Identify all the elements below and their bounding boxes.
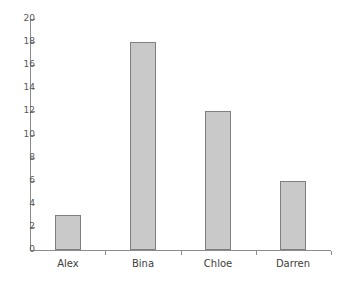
- y-axis-tick: 2: [0, 222, 35, 231]
- y-axis-tick: 8: [0, 153, 35, 162]
- y-axis-tick-label: 14: [13, 83, 35, 92]
- y-axis-tick: 16: [0, 60, 35, 69]
- y-axis-tick-label: 2: [13, 222, 35, 231]
- x-axis-category-label: Bina: [103, 258, 183, 270]
- y-axis-tick-label: 0: [13, 245, 35, 254]
- x-axis-tick-mark: [331, 251, 332, 255]
- bar: [55, 215, 81, 250]
- x-axis-category-label: Alex: [28, 258, 108, 270]
- bar: [130, 42, 156, 250]
- y-axis-tick-label: 18: [13, 37, 35, 46]
- y-axis-tick: 12: [0, 106, 35, 115]
- y-axis-tick: 6: [0, 176, 35, 185]
- bar-chart: 02468101214161820 AlexBinaChloeDarren: [0, 0, 341, 292]
- y-axis-tick: 14: [0, 83, 35, 92]
- x-axis-tick-mark: [256, 251, 257, 255]
- x-axis-tick-mark: [181, 251, 182, 255]
- y-axis-tick-label: 10: [13, 130, 35, 139]
- bar: [280, 181, 306, 250]
- x-axis-tick-mark: [105, 251, 106, 255]
- y-axis-tick: 4: [0, 199, 35, 208]
- y-axis-tick-label: 16: [13, 60, 35, 69]
- y-axis-tick-label: 4: [13, 199, 35, 208]
- bar: [205, 111, 231, 250]
- y-axis-tick-label: 6: [13, 176, 35, 185]
- y-axis-tick-label: 20: [13, 14, 35, 23]
- y-axis-tick: 10: [0, 130, 35, 139]
- y-axis-tick: 20: [0, 14, 35, 23]
- y-axis-tick: 18: [0, 37, 35, 46]
- y-axis-tick-label: 12: [13, 106, 35, 115]
- x-axis-category-label: Chloe: [178, 258, 258, 270]
- x-axis-category-label: Darren: [253, 258, 333, 270]
- y-axis-tick: 0: [0, 245, 35, 254]
- y-axis-tick-label: 8: [13, 153, 35, 162]
